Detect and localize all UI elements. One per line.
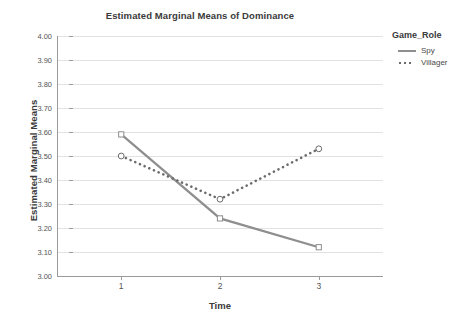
gridline xyxy=(57,108,383,109)
y-axis-tick-label: 3.60 xyxy=(22,128,52,137)
legend-label-spy: Spy xyxy=(421,46,435,55)
y-axis-tick-label: 4.00 xyxy=(22,32,52,41)
y-axis-line xyxy=(57,36,58,276)
chart-title: Estimated Marginal Means of Dominance xyxy=(0,10,400,21)
y-axis-tick-label: 3.30 xyxy=(22,200,52,209)
y-axis-tick-mark xyxy=(69,60,73,61)
y-axis-tick-labels: 3.003.103.203.303.403.503.603.703.803.90… xyxy=(16,36,52,276)
y-axis-tick-mark xyxy=(69,228,73,229)
y-axis-tick-label: 3.90 xyxy=(22,56,52,65)
y-axis-tick-mark xyxy=(69,108,73,109)
y-axis-tick-mark xyxy=(69,252,73,253)
y-axis-tick-label: 3.80 xyxy=(22,80,52,89)
y-axis-tick-mark xyxy=(69,156,73,157)
plot-area xyxy=(57,36,383,276)
legend-swatch-dotted-icon xyxy=(398,59,416,67)
y-axis-tick-label: 3.20 xyxy=(22,224,52,233)
y-axis-tick-label: 3.40 xyxy=(22,176,52,185)
y-axis-tick-mark xyxy=(69,276,73,277)
x-axis-tick-mark xyxy=(319,276,320,280)
legend-item-spy[interactable]: Spy xyxy=(392,46,467,55)
y-axis-tick-label: 3.50 xyxy=(22,152,52,161)
legend-item-villager[interactable]: Villager xyxy=(392,58,467,67)
legend-swatch-solid-icon xyxy=(398,47,416,55)
gridline xyxy=(57,60,383,61)
x-axis-tick-label: 2 xyxy=(205,281,235,291)
x-axis-tick-mark xyxy=(121,276,122,280)
y-axis-tick-mark xyxy=(69,180,73,181)
x-axis-tick-mark xyxy=(220,276,221,280)
gridline xyxy=(57,132,383,133)
y-axis-tick-label: 3.70 xyxy=(22,104,52,113)
legend-label-villager: Villager xyxy=(421,58,448,67)
chart-container: Estimated Marginal Means of Dominance Es… xyxy=(0,0,467,324)
gridline xyxy=(57,156,383,157)
x-axis-tick-label: 3 xyxy=(304,281,334,291)
gridline xyxy=(57,204,383,205)
x-axis-tick-label: 1 xyxy=(106,281,136,291)
x-axis-title: Time xyxy=(57,300,383,311)
gridline xyxy=(57,84,383,85)
y-axis-tick-mark xyxy=(69,36,73,37)
gridline xyxy=(57,252,383,253)
y-axis-tick-mark xyxy=(69,204,73,205)
y-axis-tick-mark xyxy=(69,132,73,133)
gridline xyxy=(57,180,383,181)
gridline xyxy=(57,36,383,37)
y-axis-tick-label: 3.00 xyxy=(22,272,52,281)
legend-title: Game_Role xyxy=(392,30,467,40)
y-axis-tick-label: 3.10 xyxy=(22,248,52,257)
legend: Game_Role Spy Villager xyxy=(392,30,467,70)
gridline xyxy=(57,228,383,229)
y-axis-tick-mark xyxy=(69,84,73,85)
